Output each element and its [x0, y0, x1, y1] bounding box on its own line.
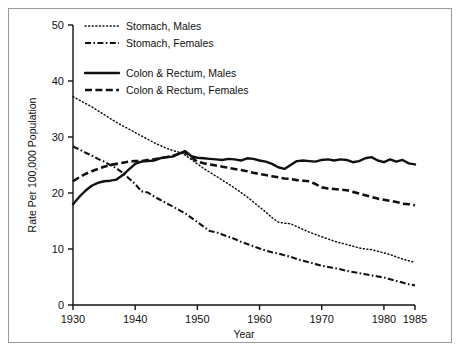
y-axis-title: Rate Per 100,000 Population: [26, 97, 38, 232]
x-tick-label: 1985: [403, 313, 427, 325]
x-tick-label: 1940: [123, 313, 147, 325]
x-tick-label: 1930: [61, 313, 85, 325]
y-tick-label: 10: [52, 243, 64, 255]
x-tick-label: 1960: [247, 313, 271, 325]
series-lines: [73, 97, 415, 286]
legend-label-1: Stomach, Females: [126, 37, 214, 49]
legend-label-2: Colon & Rectum, Males: [126, 67, 236, 79]
x-axis-title: Year: [233, 328, 255, 340]
y-tick-label: 50: [52, 19, 64, 31]
series-line-1: [73, 147, 415, 286]
y-tick-label: 40: [52, 75, 64, 87]
y-tick-label: 30: [52, 131, 64, 143]
legend-label-3: Colon & Rectum, Females: [126, 84, 249, 96]
figure-page: Stomach, MalesStomach, FemalesColon & Re…: [0, 0, 469, 359]
line-chart: Stomach, MalesStomach, FemalesColon & Re…: [0, 0, 469, 359]
x-tick-label: 1950: [185, 313, 209, 325]
series-line-2: [73, 151, 415, 204]
y-tick-label: 20: [52, 187, 64, 199]
chart-legend: Stomach, MalesStomach, FemalesColon & Re…: [85, 20, 249, 96]
series-line-0: [73, 97, 415, 263]
x-tick-label: 1980: [372, 313, 396, 325]
legend-label-0: Stomach, Males: [126, 20, 201, 32]
chart-canvas: Stomach, MalesStomach, FemalesColon & Re…: [0, 0, 469, 359]
x-tick-label: 1970: [309, 313, 333, 325]
y-tick-label: 0: [58, 299, 64, 311]
axes: [68, 25, 415, 310]
y-axis-title-group: Rate Per 100,000 Population: [26, 97, 38, 232]
